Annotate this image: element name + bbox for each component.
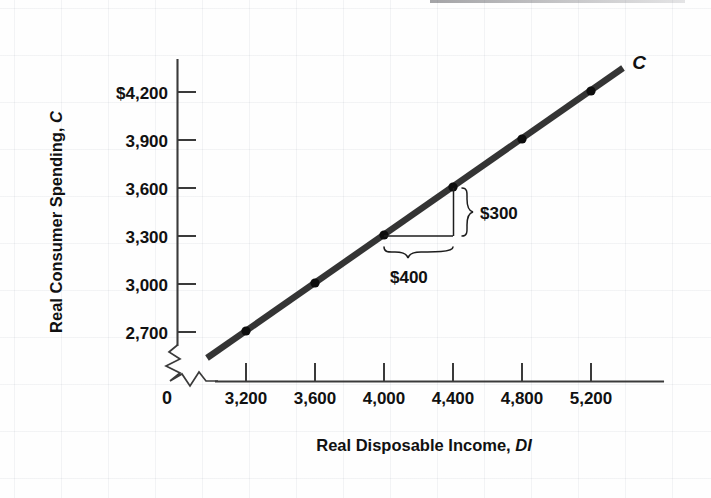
data-point-3200: [241, 326, 250, 335]
axis-break-symbol: [166, 345, 218, 386]
y-tick-label-3300: 3,300: [125, 228, 168, 247]
rise-brace: [462, 188, 473, 236]
x-tick-label-4000: 4,000: [363, 389, 406, 408]
run-label: $400: [390, 268, 428, 287]
x-tick-label-3600: 3,600: [294, 389, 337, 408]
y-tick-label-3900: 3,900: [125, 132, 168, 151]
data-point-4000: [379, 230, 388, 239]
data-point-5200: [586, 86, 595, 95]
x-tick-label-5200: 5,200: [570, 389, 613, 408]
y-tick-label-4200: $4,200: [116, 84, 168, 103]
x-tick-label-4800: 4,800: [501, 389, 544, 408]
data-point-3600: [310, 278, 319, 287]
consumption-curve-group: C: [207, 52, 646, 358]
chart-svg: $4,200 3,900 3,600 3,300 3,000 2,700 3,2…: [0, 0, 711, 498]
y-axis-title-main: Real Consumer Spending,: [47, 123, 65, 333]
y-axis-title-symbol: C: [47, 110, 65, 123]
y-tick-label-3000: 3,000: [125, 276, 168, 295]
consumption-function-chart: $4,200 3,900 3,600 3,300 3,000 2,700 3,2…: [0, 0, 711, 498]
rise-brace-group: $300: [462, 188, 518, 236]
rise-label: $300: [480, 204, 518, 223]
x-axis-group: 3,200 3,600 4,000 4,400 4,800 5,200: [216, 363, 663, 408]
x-axis-title-main: Real Disposable Income,: [316, 436, 515, 454]
y-axis-group: $4,200 3,900 3,600 3,300 3,000 2,700: [116, 60, 196, 345]
x-tick-label-3200: 3,200: [225, 389, 268, 408]
curve-label-c: C: [632, 52, 646, 73]
y-tick-label-3600: 3,600: [125, 180, 168, 199]
x-axis-title-symbol: DI: [515, 436, 532, 454]
run-brace-group: $400: [384, 247, 453, 287]
data-point-4800: [517, 134, 526, 143]
y-tick-label-2700: 2,700: [125, 324, 168, 343]
run-brace: [384, 247, 453, 258]
consumption-function-line: [207, 68, 623, 358]
origin-label: 0: [162, 388, 172, 408]
x-axis-title: Real Disposable Income, DI: [316, 436, 532, 454]
y-axis-title: Real Consumer Spending, C: [47, 110, 65, 333]
x-tick-label-4400: 4,400: [432, 389, 475, 408]
